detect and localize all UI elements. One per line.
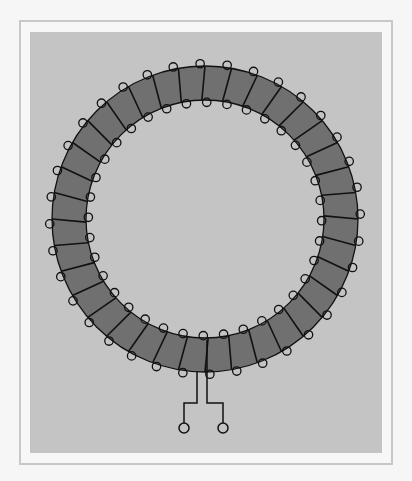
toroid-diagram <box>0 0 412 481</box>
coil-windings <box>46 60 365 379</box>
toroid-core <box>52 66 358 372</box>
terminal-icon <box>218 423 228 433</box>
terminal-icon <box>179 423 189 433</box>
lead-left <box>179 372 197 433</box>
ferrite-core-ring <box>52 66 358 372</box>
lead-wire <box>184 372 197 423</box>
diagram-canvas <box>0 0 412 481</box>
